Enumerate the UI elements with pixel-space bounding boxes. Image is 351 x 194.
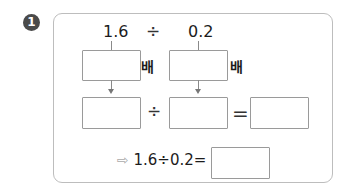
- dividend-text: 1.6: [103, 22, 128, 41]
- new-dividend-input[interactable]: [82, 97, 141, 129]
- times-label-2: 배: [230, 56, 243, 76]
- final-answer-input[interactable]: [211, 147, 270, 179]
- divisor-text: 0.2: [188, 22, 213, 41]
- down-arrow-icon: [195, 89, 201, 94]
- new-divisor-input[interactable]: [169, 97, 228, 129]
- quotient-input[interactable]: [250, 97, 309, 129]
- result-line: ⇨ 1.6÷0.2=: [117, 151, 206, 169]
- divide-symbol-middle: ÷: [147, 101, 161, 121]
- arrow-line-1: [111, 80, 112, 89]
- hollow-right-arrow-icon: ⇨: [117, 152, 129, 168]
- arrow-line-2: [198, 80, 199, 89]
- times-label-1: 배: [141, 56, 154, 76]
- divisor-multiplier-input[interactable]: [169, 50, 228, 81]
- down-arrow-icon: [108, 89, 114, 94]
- result-expression: 1.6÷0.2=: [134, 151, 207, 169]
- equals-symbol: =: [232, 101, 249, 125]
- dividend-multiplier-input[interactable]: [82, 50, 141, 81]
- divide-symbol-top: ÷: [146, 21, 160, 41]
- problem-number-badge: 1: [23, 14, 40, 31]
